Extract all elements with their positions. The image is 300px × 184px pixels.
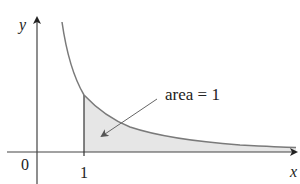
area-annotation: area = 1 xyxy=(165,85,220,104)
origin-label: 0 xyxy=(21,156,29,173)
x-tick-label-1: 1 xyxy=(80,164,88,181)
y-axis-label: y xyxy=(17,16,27,34)
area-under-curve-diagram: y x 0 1 area = 1 xyxy=(0,0,300,184)
x-axis-label: x xyxy=(289,163,297,180)
